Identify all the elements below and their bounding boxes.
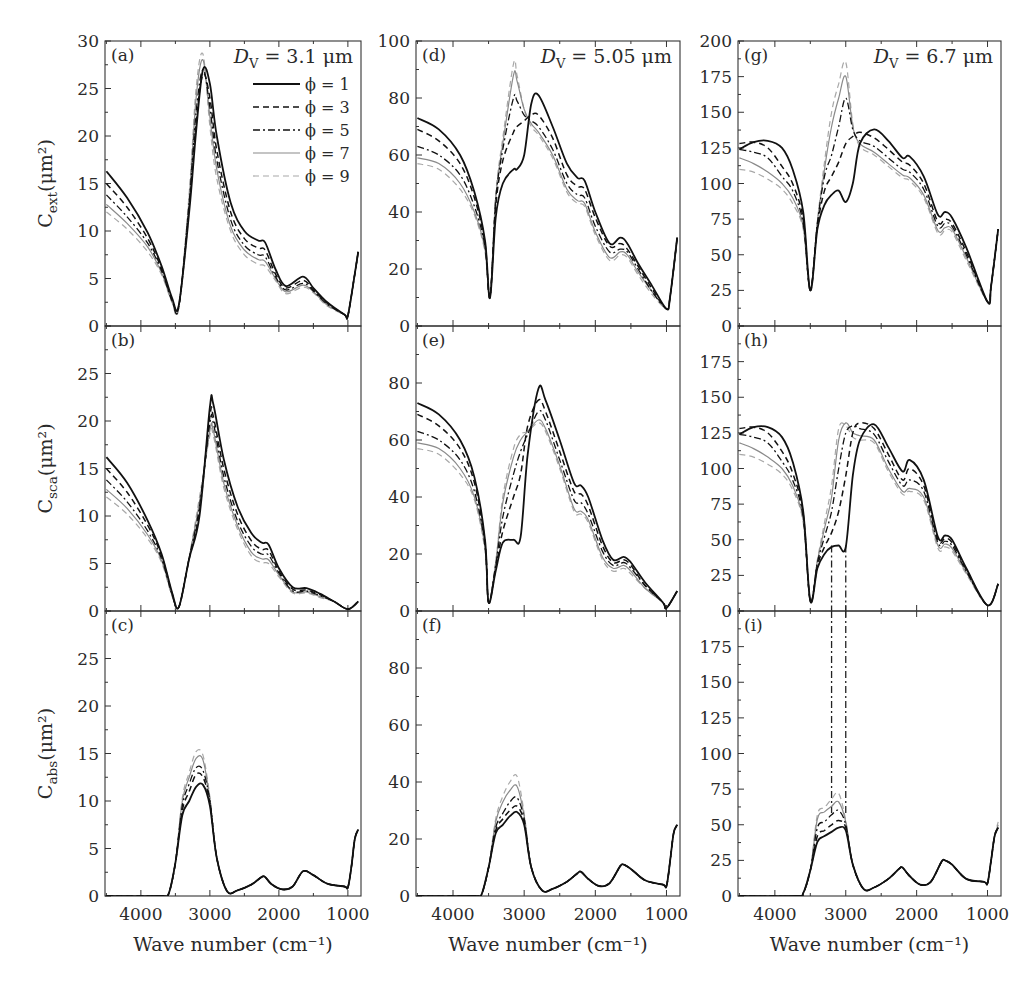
y-tick-label: 5 bbox=[88, 269, 99, 289]
y-tick-label: 0 bbox=[88, 316, 99, 336]
y-tick-label: 150 bbox=[700, 102, 732, 122]
series-line-phi-5 bbox=[739, 98, 998, 303]
y-tick-label: 25 bbox=[77, 649, 99, 669]
series-line-phi-9 bbox=[739, 423, 998, 606]
x-tick-label: 4000 bbox=[431, 904, 474, 924]
axes-frame bbox=[738, 326, 1001, 611]
panel-label: (h) bbox=[744, 330, 768, 350]
series-line-phi-1 bbox=[106, 783, 358, 897]
y-tick-label: 60 bbox=[388, 430, 410, 450]
panel-label: (b) bbox=[111, 330, 135, 350]
x-tick-label: 4000 bbox=[119, 904, 162, 924]
axes-frame bbox=[105, 611, 361, 896]
series-line-phi-1 bbox=[739, 827, 998, 897]
y-tick-label: 125 bbox=[700, 708, 732, 728]
series-line-phi-1 bbox=[106, 395, 358, 609]
y-tick-label: 25 bbox=[77, 79, 99, 99]
x-tick-label: 1000 bbox=[645, 904, 688, 924]
y-tick-label: 0 bbox=[721, 316, 732, 336]
series-group bbox=[739, 423, 998, 606]
y-tick-label: 175 bbox=[700, 352, 732, 372]
y-tick-label: 60 bbox=[388, 715, 410, 735]
series-line-phi-3 bbox=[417, 400, 677, 609]
x-tick-label: 3000 bbox=[503, 904, 546, 924]
series-line-phi-3 bbox=[739, 820, 998, 896]
y-tick-label: 100 bbox=[700, 459, 732, 479]
panel-c: 05101520254000300020001000Wave number (c… bbox=[34, 611, 370, 955]
panel-label: (i) bbox=[744, 615, 763, 635]
legend-label: ϕ = 5 bbox=[305, 121, 350, 140]
series-line-phi-9 bbox=[739, 61, 998, 303]
legend-item: ϕ = 5 bbox=[253, 121, 350, 140]
legend-item: ϕ = 9 bbox=[253, 167, 350, 186]
panel-label: (c) bbox=[111, 615, 134, 635]
series-line-phi-5 bbox=[739, 426, 998, 606]
x-axis-label: Wave number (cm⁻¹) bbox=[770, 933, 969, 955]
legend-label: ϕ = 1 bbox=[305, 75, 350, 94]
series-line-phi-9 bbox=[739, 792, 998, 896]
y-tick-label: 20 bbox=[77, 696, 99, 716]
legend-item: ϕ = 7 bbox=[253, 144, 350, 163]
y-axis-label: Cabs(μm²) bbox=[34, 708, 60, 799]
y-tick-label: 50 bbox=[710, 530, 732, 550]
y-tick-label: 150 bbox=[700, 387, 732, 407]
y-tick-label: 200 bbox=[700, 31, 732, 51]
series-group bbox=[417, 385, 677, 608]
x-tick-label: 3000 bbox=[824, 904, 867, 924]
y-tick-label: 10 bbox=[77, 791, 99, 811]
y-tick-label: 40 bbox=[388, 772, 410, 792]
series-group bbox=[106, 750, 358, 898]
panel-h: 0255075100125150175(h) bbox=[700, 326, 1001, 621]
series-group bbox=[106, 395, 358, 609]
y-tick-label: 0 bbox=[88, 886, 99, 906]
y-tick-label: 125 bbox=[700, 423, 732, 443]
series-line-phi-5 bbox=[739, 810, 998, 896]
y-tick-label: 25 bbox=[77, 364, 99, 384]
y-tick-label: 80 bbox=[388, 373, 410, 393]
y-tick-label: 100 bbox=[700, 744, 732, 764]
x-tick-label: 4000 bbox=[753, 904, 796, 924]
panel-label: (d) bbox=[422, 45, 446, 65]
y-tick-label: 0 bbox=[399, 601, 410, 621]
legend-label: ϕ = 9 bbox=[305, 167, 350, 186]
dv-title: DV = 5.05 μm bbox=[540, 45, 672, 71]
series-line-phi-9 bbox=[417, 775, 677, 898]
panel-f: 0204060804000300020001000Wave number (cm… bbox=[388, 611, 688, 955]
dv-title: DV = 6.7 μm bbox=[873, 45, 993, 71]
y-tick-label: 20 bbox=[77, 126, 99, 146]
legend-label: ϕ = 7 bbox=[305, 144, 350, 163]
series-line-phi-7 bbox=[739, 76, 998, 303]
series-group bbox=[417, 775, 677, 898]
y-tick-label: 10 bbox=[77, 506, 99, 526]
series-line-phi-1 bbox=[739, 424, 998, 605]
x-tick-label: 3000 bbox=[188, 904, 231, 924]
axes-frame bbox=[416, 611, 680, 896]
y-tick-label: 75 bbox=[710, 494, 732, 514]
panel-g: 0255075100125150175200(g)DV = 6.7 μm bbox=[700, 31, 1001, 336]
y-tick-label: 80 bbox=[388, 88, 410, 108]
y-tick-label: 25 bbox=[710, 850, 732, 870]
y-tick-label: 25 bbox=[710, 565, 732, 585]
x-axis-label: Wave number (cm⁻¹) bbox=[133, 933, 332, 955]
x-axis-label: Wave number (cm⁻¹) bbox=[448, 933, 647, 955]
y-tick-label: 175 bbox=[700, 637, 732, 657]
panel-d: 020406080100(d)DV = 5.05 μm bbox=[378, 31, 680, 336]
panel-b: 0510152025Csca(μm²)(b) bbox=[34, 326, 361, 621]
series-line-phi-5 bbox=[417, 797, 677, 897]
y-tick-label: 25 bbox=[710, 280, 732, 300]
y-tick-label: 175 bbox=[700, 67, 732, 87]
panel-label: (e) bbox=[422, 330, 445, 350]
panel-label: (a) bbox=[111, 45, 134, 65]
y-tick-label: 30 bbox=[77, 31, 99, 51]
y-tick-label: 15 bbox=[77, 174, 99, 194]
legend: ϕ = 1ϕ = 3ϕ = 5ϕ = 7ϕ = 9 bbox=[253, 75, 350, 186]
dv-title: DV = 3.1 μm bbox=[233, 45, 353, 71]
series-line-phi-7 bbox=[106, 756, 358, 898]
series-line-phi-1 bbox=[417, 812, 677, 897]
series-line-phi-3 bbox=[417, 806, 677, 897]
panel-label: (g) bbox=[744, 45, 768, 65]
series-line-phi-5 bbox=[417, 411, 677, 609]
y-tick-label: 5 bbox=[88, 554, 99, 574]
x-tick-label: 2000 bbox=[895, 904, 938, 924]
axes-frame bbox=[738, 41, 1001, 326]
